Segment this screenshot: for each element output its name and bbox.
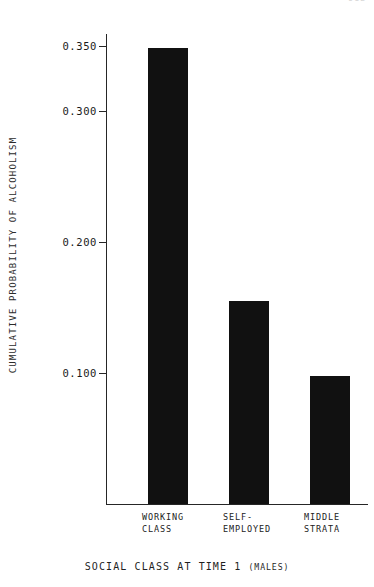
y-tick-mark (99, 46, 107, 47)
plot-area: 0.1000.2000.3000.350 (106, 30, 368, 506)
x-axis-category-label-line: CLASS (142, 524, 184, 536)
y-axis-title-text: CUMULATIVE PROBABILITY OF ALCOHOLISM (8, 137, 18, 373)
y-tick-mark (99, 111, 107, 112)
chart-figure: 512 CUMULATIVE PROBABILITY OF ALCOHOLISM… (0, 0, 374, 587)
x-axis-title: SOCIAL CLASS AT TIME 1 (MALES) (0, 561, 374, 572)
y-tick-label: 0.200 (62, 236, 97, 248)
y-axis-title: CUMULATIVE PROBABILITY OF ALCOHOLISM (0, 0, 26, 510)
bar (148, 48, 188, 504)
y-tick-mark (99, 373, 107, 374)
bar (310, 376, 350, 504)
x-axis-title-text: SOCIAL CLASS AT TIME 1 (85, 561, 249, 572)
x-axis-category-label-line: STRATA (304, 524, 340, 536)
bar (229, 301, 269, 504)
x-axis-title-suffix: (MALES) (248, 562, 289, 572)
x-axis-category-label: SELF-EMPLOYED (223, 512, 271, 535)
x-axis-category-label-line: EMPLOYED (223, 524, 271, 536)
x-axis-category-labels: WORKINGCLASSSELF-EMPLOYEDMIDDLESTRATA (106, 512, 374, 548)
x-axis-category-label-line: SELF- (223, 512, 271, 524)
y-tick-label: 0.300 (62, 105, 97, 117)
y-tick-mark (99, 242, 107, 243)
x-axis-category-label-line: WORKING (142, 512, 184, 524)
x-axis-category-label: MIDDLESTRATA (304, 512, 340, 535)
x-axis-category-label: WORKINGCLASS (142, 512, 184, 535)
page-number: 512 (349, 0, 366, 3)
x-axis-line (106, 504, 368, 505)
y-tick-label: 0.100 (62, 367, 97, 379)
y-tick-label: 0.350 (62, 40, 97, 52)
x-axis-category-label-line: MIDDLE (304, 512, 340, 524)
y-axis-line (106, 34, 107, 504)
